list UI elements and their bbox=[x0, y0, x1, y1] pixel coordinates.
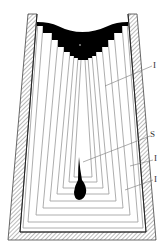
label-I-top: I bbox=[153, 61, 156, 70]
crucible-diagram bbox=[0, 0, 168, 247]
cap-center-dot bbox=[79, 44, 81, 46]
label-I-bottom: I bbox=[154, 175, 157, 184]
label-S: S bbox=[150, 130, 155, 139]
label-I-mid: I bbox=[154, 154, 157, 163]
shrinkage-cavity bbox=[74, 157, 86, 200]
